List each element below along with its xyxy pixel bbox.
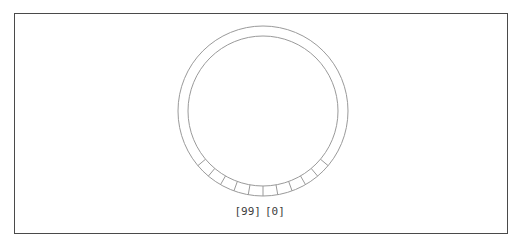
dial-label-right: [0] xyxy=(265,205,285,218)
dial-label-left: [99] xyxy=(235,205,262,218)
dial-label-group: [99] [0] xyxy=(0,0,523,248)
figure-root: [99] [0] xyxy=(0,0,523,248)
